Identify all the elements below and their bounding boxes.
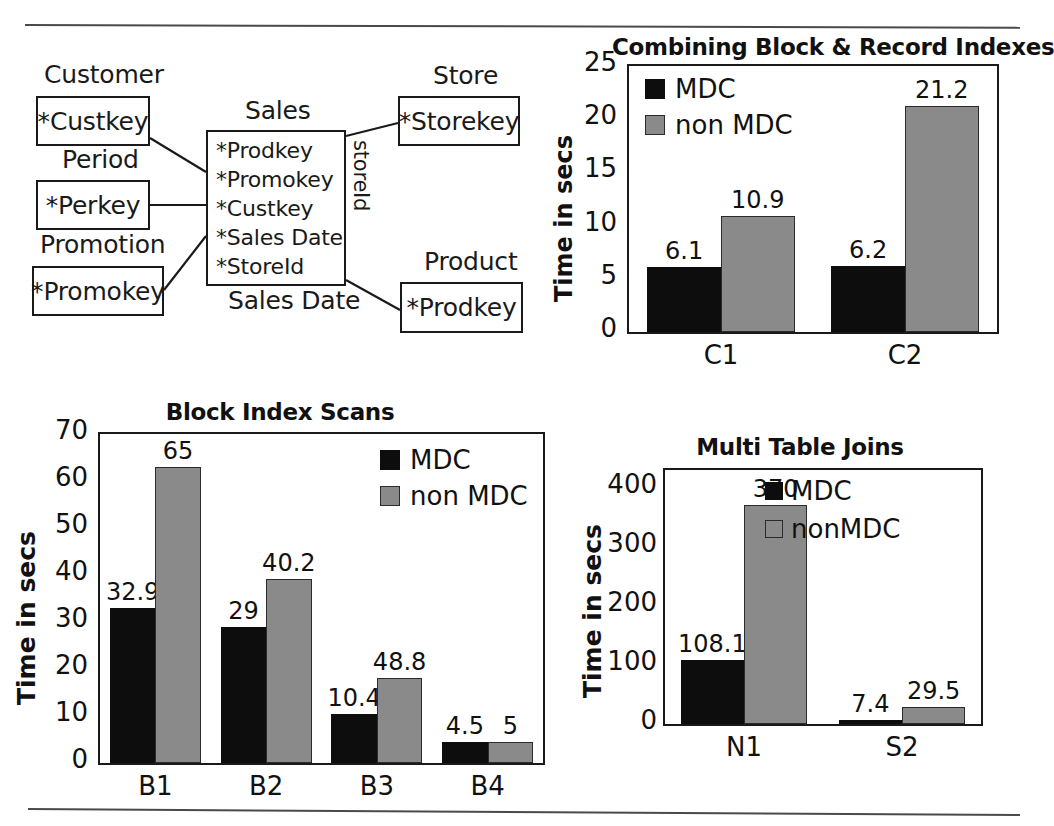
entity-key-prodkey: *Prodkey <box>406 293 516 322</box>
legend-swatch-icon <box>380 450 400 470</box>
y-axis-tick: 0 <box>577 313 617 343</box>
legend-swatch-icon <box>645 115 665 135</box>
entity-caption-period: Period <box>62 145 139 174</box>
y-axis-tick: 25 <box>577 47 617 77</box>
fact-column: *Custkey <box>216 194 313 223</box>
y-axis-tick: 0 <box>40 744 88 774</box>
y-axis-label: Time in secs <box>12 505 41 705</box>
x-axis-tick: S2 <box>823 732 981 762</box>
legend-swatch-icon <box>765 520 783 538</box>
legend-swatch-icon <box>645 79 665 99</box>
entity-key-promokey: *Promokey <box>31 277 165 306</box>
legend-label: MDC <box>791 476 852 506</box>
legend-swatch-icon <box>380 486 400 506</box>
chart-legend: MDCnon MDC <box>645 74 793 146</box>
y-axis-tick: 100 <box>595 646 657 676</box>
bar-B4-non-mdc <box>488 742 533 763</box>
y-axis-tick: 200 <box>595 587 657 617</box>
bar-C1-non-mdc <box>721 216 795 332</box>
bar-value-label: 29.5 <box>890 677 977 705</box>
bar-value-label: 6.1 <box>635 237 733 265</box>
link-customer-sales <box>150 138 206 172</box>
bar-value-label: 40.2 <box>254 549 323 577</box>
chart-block-index-scans: Block Index Scans Time in secs 010203040… <box>0 395 560 815</box>
legend-item-non-mdc: non MDC <box>645 110 793 140</box>
legend-item-nonmdc: nonMDC <box>765 514 900 544</box>
bar-B3-mdc <box>331 714 376 763</box>
entity-key-custkey: *Custkey <box>38 107 149 136</box>
bar-C2-mdc <box>831 266 905 332</box>
entity-key-perkey: *Perkey <box>46 191 141 220</box>
entity-box-product: *Prodkey <box>400 282 523 333</box>
entity-caption-promotion: Promotion <box>40 230 165 259</box>
x-axis-tick: B1 <box>100 771 211 801</box>
bar-value-label: 108.1 <box>669 630 756 658</box>
legend-label: non MDC <box>410 481 528 511</box>
bar-B1-mdc <box>110 608 155 763</box>
legend-label: MDC <box>410 445 471 475</box>
fact-sublabel-sales-date: Sales Date <box>228 286 360 315</box>
x-axis-tick: C1 <box>629 340 813 370</box>
entity-caption-customer: Customer <box>44 60 164 89</box>
x-axis-tick: B3 <box>322 771 433 801</box>
fact-caption-sales: Sales <box>245 96 311 125</box>
entity-box-store: *Storekey <box>398 96 520 146</box>
legend-label: non MDC <box>675 110 793 140</box>
top-rule <box>25 24 1020 29</box>
x-axis-tick: C2 <box>813 340 997 370</box>
x-axis-tick: N1 <box>665 732 823 762</box>
y-axis-tick: 15 <box>577 153 617 183</box>
fact-box-sales: *Prodkey *Promokey *Custkey *Sales Date … <box>206 130 346 286</box>
y-axis-tick: 40 <box>40 556 88 586</box>
fact-column: *Prodkey <box>216 136 313 165</box>
y-axis-tick: 30 <box>40 603 88 633</box>
x-axis-tick: B2 <box>211 771 322 801</box>
entity-key-storekey: *Storekey <box>399 107 520 136</box>
chart-title: Combining Block & Record Indexes <box>612 34 1032 60</box>
chart-title: Block Index Scans <box>80 399 480 425</box>
fact-column: *Promokey <box>216 165 334 194</box>
legend-item-non-mdc: non MDC <box>380 481 528 511</box>
legend-item-mdc: MDC <box>765 476 900 506</box>
link-label-storeid: storeId <box>349 140 373 211</box>
y-axis-tick: 20 <box>40 650 88 680</box>
bar-B2-non-mdc <box>266 579 311 763</box>
bar-B2-mdc <box>221 627 266 763</box>
bar-value-label: 48.8 <box>365 648 434 676</box>
bar-B3-non-mdc <box>377 678 422 763</box>
bar-B1-non-mdc <box>155 467 200 763</box>
y-axis-tick: 400 <box>595 469 657 499</box>
y-axis-tick: 5 <box>577 260 617 290</box>
bar-value-label: 21.2 <box>893 76 991 104</box>
y-axis-tick: 0 <box>595 705 657 735</box>
link-promotion-sales <box>164 236 206 290</box>
legend-item-mdc: MDC <box>645 74 793 104</box>
chart-legend: MDCnon MDC <box>380 445 528 517</box>
entity-box-period: *Perkey <box>36 180 150 230</box>
chart-multi-table-joins: Multi Table Joins Time in secs 010020030… <box>560 430 1026 800</box>
bar-C1-mdc <box>647 267 721 332</box>
bar-value-label: 6.2 <box>819 236 917 264</box>
legend-label: MDC <box>675 74 736 104</box>
y-axis-tick: 70 <box>40 415 88 445</box>
bar-C2-non-mdc <box>905 106 979 332</box>
legend-swatch-icon <box>765 482 783 500</box>
bar-S2-mdc <box>839 720 902 724</box>
fact-column: *StoreId <box>216 252 304 281</box>
chart-combining-block-record-indexes: Combining Block & Record Indexes Time in… <box>540 30 1026 400</box>
bar-value-label: 10.9 <box>709 186 807 214</box>
legend-label: nonMDC <box>791 514 900 544</box>
y-axis-label: Time in secs <box>550 92 578 302</box>
entity-caption-product: Product <box>424 247 518 276</box>
y-axis-tick: 300 <box>595 528 657 558</box>
y-axis-tick: 10 <box>577 207 617 237</box>
star-schema-diagram: Customer *Custkey Period *Perkey Promoti… <box>0 40 560 360</box>
link-sales-store <box>346 123 398 136</box>
bar-B4-mdc <box>442 742 487 763</box>
bar-value-label: 5 <box>476 712 545 740</box>
y-axis-tick: 60 <box>40 462 88 492</box>
entity-caption-store: Store <box>433 61 498 90</box>
chart-legend: MDCnonMDC <box>765 476 900 552</box>
bar-N1-mdc <box>681 660 744 724</box>
